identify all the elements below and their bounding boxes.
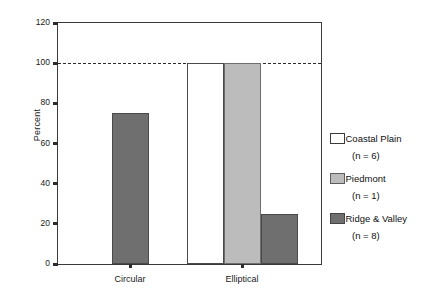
y-tick-label: 80 <box>41 97 50 107</box>
legend-count-ridge-valley: (n = 8) <box>352 230 424 241</box>
y-tick-label: 0 <box>45 258 50 268</box>
y-tick-mark <box>53 182 58 185</box>
x-tick-label: Elliptical <box>225 274 258 284</box>
x-tick-mark <box>129 264 132 268</box>
y-tick-mark <box>53 263 58 266</box>
bar-elliptical-ridge-valley <box>261 214 298 264</box>
y-tick-label: 60 <box>41 138 50 148</box>
bar-elliptical-piedmont <box>224 63 261 264</box>
legend-swatch-icon-ridge-valley <box>330 213 345 224</box>
y-tick-label: 20 <box>41 218 50 228</box>
y-tick-mark <box>53 102 58 105</box>
legend-label-ridge-valley: Ridge & Valley <box>346 213 408 224</box>
bar-circular-ridge-valley <box>112 113 149 264</box>
legend-count-piedmont: (n = 1) <box>352 190 424 201</box>
y-tick-mark <box>53 142 58 145</box>
legend-entry-piedmont: Piedmont (n = 1) <box>330 172 424 201</box>
plot-frame: 0 20 40 60 80 100 <box>57 22 322 265</box>
x-tick-label: Circular <box>114 274 145 284</box>
legend-label-piedmont: Piedmont <box>346 173 386 184</box>
y-tick-mark <box>53 22 58 25</box>
bar-chart-figure: Percent 0 20 40 60 80 <box>0 0 424 302</box>
chart-legend: Coastal Plain (n = 6) Piedmont (n = 1) R… <box>330 132 424 252</box>
legend-row: Coastal Plain <box>330 132 424 145</box>
legend-row: Piedmont <box>330 172 424 185</box>
legend-entry-ridge-valley: Ridge & Valley (n = 8) <box>330 212 424 241</box>
bar-elliptical-coastal-plain <box>187 63 224 264</box>
y-tick-mark <box>53 222 58 225</box>
x-tick-mark <box>241 264 244 268</box>
legend-row: Ridge & Valley <box>330 212 424 225</box>
plot-area: 0 20 40 60 80 100 <box>58 23 321 264</box>
legend-count-coastal-plain: (n = 6) <box>352 150 424 161</box>
y-tick-label: 120 <box>36 17 50 27</box>
legend-label-coastal-plain: Coastal Plain <box>346 133 402 144</box>
legend-entry-coastal-plain: Coastal Plain (n = 6) <box>330 132 424 161</box>
legend-swatch-icon-piedmont <box>330 173 345 184</box>
y-tick-label: 40 <box>41 178 50 188</box>
legend-swatch-icon-coastal-plain <box>330 133 345 144</box>
y-tick-label: 100 <box>36 57 50 67</box>
